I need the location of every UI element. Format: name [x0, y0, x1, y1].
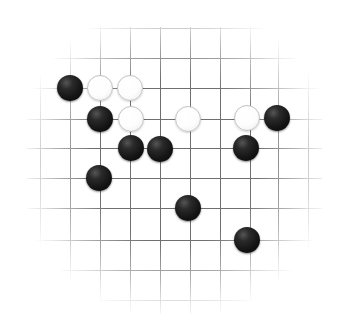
black-stone[interactable] [234, 227, 260, 253]
go-board[interactable] [0, 0, 351, 335]
black-stone[interactable] [147, 136, 173, 162]
black-stone[interactable] [175, 195, 201, 221]
black-stone[interactable] [86, 165, 112, 191]
black-stone[interactable] [57, 75, 83, 101]
black-stone[interactable] [87, 106, 113, 132]
white-stone[interactable] [117, 75, 143, 101]
white-stone[interactable] [175, 106, 201, 132]
black-stone[interactable] [233, 135, 259, 161]
white-stone[interactable] [234, 105, 260, 131]
black-stone[interactable] [118, 135, 144, 161]
black-stone[interactable] [264, 105, 290, 131]
stones-layer [0, 0, 351, 335]
white-stone[interactable] [118, 106, 144, 132]
white-stone[interactable] [87, 75, 113, 101]
